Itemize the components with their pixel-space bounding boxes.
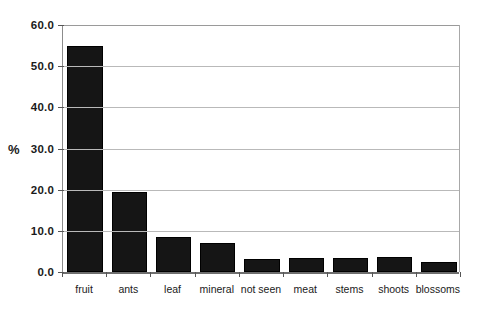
gridline [63, 66, 459, 67]
x-axis-tick [416, 272, 417, 277]
x-axis-category-label: mineral [200, 283, 234, 295]
y-axis-tick [58, 66, 64, 67]
bar [421, 262, 456, 272]
x-axis-category-label: shoots [378, 283, 409, 295]
x-axis-category-label: fruit [75, 283, 93, 295]
bar-chart-figure: % 0.010.020.030.040.050.060.0 fruitantsl… [0, 0, 478, 309]
x-axis-tick [62, 272, 63, 277]
x-axis-tick [372, 272, 373, 277]
bar [200, 243, 235, 272]
gridline [63, 231, 459, 232]
x-axis-tick [239, 272, 240, 277]
bar [112, 192, 147, 272]
x-axis-category-label: leaf [164, 283, 181, 295]
y-axis-title: % [8, 141, 20, 156]
x-axis-tick [195, 272, 196, 277]
y-axis: % 0.010.020.030.040.050.060.0 [0, 0, 58, 309]
x-axis-tick [283, 272, 284, 277]
x-axis-labels: fruitantsleafmineralnot seenmeatstemssho… [62, 283, 460, 305]
y-axis-tick-label: 10.0 [31, 225, 54, 237]
y-axis-tick-label: 40.0 [31, 101, 54, 113]
x-axis-ticks [62, 272, 460, 280]
x-axis-tick [460, 272, 461, 277]
x-axis-tick [150, 272, 151, 277]
y-axis-tick-label: 60.0 [31, 19, 54, 31]
bar [156, 237, 191, 272]
bar [377, 257, 412, 272]
gridline [63, 25, 459, 26]
y-axis-tick [58, 231, 64, 232]
gridline [63, 149, 459, 150]
y-axis-tick-label: 50.0 [31, 60, 54, 72]
y-axis-tick [58, 25, 64, 26]
bar [67, 46, 102, 272]
x-axis-tick [327, 272, 328, 277]
gridline [63, 190, 459, 191]
x-axis-category-label: ants [118, 283, 138, 295]
bar [244, 259, 279, 272]
x-axis-tick [106, 272, 107, 277]
y-axis-tick [58, 149, 64, 150]
plot-area [62, 25, 460, 272]
x-axis-category-label: not seen [241, 283, 281, 295]
gridline [63, 107, 459, 108]
y-axis-tick-label: 30.0 [31, 143, 54, 155]
y-axis-tick-label: 0.0 [37, 266, 54, 278]
y-axis-tick-label: 20.0 [31, 184, 54, 196]
x-axis-category-label: meat [294, 283, 317, 295]
bar [333, 258, 368, 272]
x-axis-category-label: stems [335, 283, 363, 295]
x-axis-category-label: blossoms [416, 283, 460, 295]
bar [289, 258, 324, 272]
y-axis-tick [58, 107, 64, 108]
y-axis-tick [58, 190, 64, 191]
